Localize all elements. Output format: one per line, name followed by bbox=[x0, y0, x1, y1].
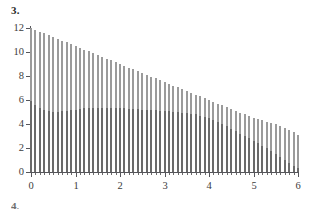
bar bbox=[212, 120, 214, 172]
x-axis-minor-tick bbox=[160, 173, 161, 175]
bar bbox=[155, 110, 157, 172]
x-axis-minor-tick bbox=[129, 173, 130, 175]
bar bbox=[97, 108, 99, 172]
bar bbox=[61, 111, 63, 172]
x-axis-minor-tick bbox=[262, 173, 263, 175]
x-axis-tick-label: 3 bbox=[155, 180, 175, 191]
bar bbox=[123, 108, 125, 172]
bar bbox=[284, 160, 286, 172]
bar bbox=[43, 110, 45, 172]
x-axis-minor-tick bbox=[258, 173, 259, 175]
bar bbox=[52, 112, 54, 172]
x-axis-minor-tick bbox=[89, 173, 90, 175]
x-axis-minor-tick bbox=[49, 173, 50, 175]
x-axis-tick-label: 1 bbox=[66, 180, 86, 191]
bar bbox=[92, 108, 94, 172]
bar bbox=[235, 131, 237, 172]
y-axis-tick-label: 4 bbox=[0, 119, 24, 129]
x-axis-tick bbox=[254, 173, 255, 177]
x-axis-minor-tick bbox=[147, 173, 148, 175]
bar bbox=[279, 157, 281, 172]
bar bbox=[297, 168, 299, 172]
x-axis-minor-tick bbox=[191, 173, 192, 175]
bar bbox=[146, 110, 148, 172]
x-axis-tick-label: 5 bbox=[244, 180, 264, 191]
x-axis-tick-label: 0 bbox=[21, 180, 41, 191]
bar bbox=[275, 154, 277, 172]
y-axis-labels: 024681012 bbox=[0, 0, 24, 209]
x-axis-minor-tick bbox=[271, 173, 272, 175]
bar bbox=[164, 111, 166, 172]
bar bbox=[150, 110, 152, 172]
x-axis-minor-tick bbox=[44, 173, 45, 175]
x-axis-tick-label: 6 bbox=[288, 180, 308, 191]
x-axis-minor-tick bbox=[142, 173, 143, 175]
x-axis-minor-tick bbox=[249, 173, 250, 175]
x-axis-minor-tick bbox=[156, 173, 157, 175]
x-axis-minor-tick bbox=[280, 173, 281, 175]
x-axis-minor-tick bbox=[285, 173, 286, 175]
bar bbox=[266, 148, 268, 172]
y-axis-tick-label: 8 bbox=[0, 71, 24, 81]
x-axis-minor-tick bbox=[267, 173, 268, 175]
x-axis-minor-tick bbox=[116, 173, 117, 175]
x-axis-minor-tick bbox=[98, 173, 99, 175]
x-axis-minor-tick bbox=[222, 173, 223, 175]
x-axis-minor-tick bbox=[196, 173, 197, 175]
x-axis-tick-label: 4 bbox=[199, 180, 219, 191]
bar bbox=[70, 110, 72, 172]
bar bbox=[261, 146, 263, 172]
bar bbox=[34, 105, 36, 172]
bar bbox=[190, 114, 192, 172]
bar bbox=[270, 151, 272, 172]
y-axis-tick-label: 12 bbox=[0, 23, 24, 33]
bar bbox=[244, 136, 246, 172]
x-axis-minor-tick bbox=[40, 173, 41, 175]
x-axis-minor-tick bbox=[276, 173, 277, 175]
bar bbox=[119, 108, 121, 172]
bar bbox=[226, 126, 228, 172]
bar bbox=[168, 111, 170, 172]
x-axis-minor-tick bbox=[111, 173, 112, 175]
x-axis-minor-tick bbox=[151, 173, 152, 175]
bar bbox=[79, 109, 81, 172]
bar bbox=[172, 112, 174, 172]
bar bbox=[48, 111, 50, 172]
x-axis-tick bbox=[209, 173, 210, 177]
bar bbox=[57, 112, 59, 172]
bar bbox=[159, 111, 161, 172]
x-axis-minor-tick bbox=[138, 173, 139, 175]
x-axis-tick bbox=[76, 173, 77, 177]
bar bbox=[110, 108, 112, 172]
x-axis-tick bbox=[31, 173, 32, 177]
x-axis-minor-tick bbox=[107, 173, 108, 175]
x-axis-minor-tick bbox=[289, 173, 290, 175]
bar bbox=[132, 109, 134, 172]
bar bbox=[115, 108, 117, 172]
bar bbox=[75, 110, 77, 172]
x-axis-minor-tick bbox=[294, 173, 295, 175]
bar bbox=[141, 110, 143, 172]
x-axis-tick-label: 2 bbox=[110, 180, 130, 191]
bar bbox=[217, 122, 219, 172]
bar bbox=[30, 101, 32, 172]
bar bbox=[66, 111, 68, 172]
bar bbox=[288, 163, 290, 172]
x-axis-tick bbox=[120, 173, 121, 177]
x-axis-tick bbox=[165, 173, 166, 177]
x-axis-minor-tick bbox=[80, 173, 81, 175]
bar bbox=[257, 143, 259, 172]
bar bbox=[230, 129, 232, 172]
bar bbox=[293, 166, 295, 172]
x-axis-minor-tick bbox=[53, 173, 54, 175]
x-axis-minor-tick bbox=[58, 173, 59, 175]
x-axis-minor-tick bbox=[169, 173, 170, 175]
x-axis-minor-tick bbox=[35, 173, 36, 175]
x-axis-minor-tick bbox=[67, 173, 68, 175]
x-axis-minor-tick bbox=[71, 173, 72, 175]
bar bbox=[106, 108, 108, 172]
bar bbox=[88, 108, 90, 172]
y-axis-tick-label: 2 bbox=[0, 143, 24, 153]
x-axis-minor-tick bbox=[182, 173, 183, 175]
bar bbox=[128, 109, 130, 172]
